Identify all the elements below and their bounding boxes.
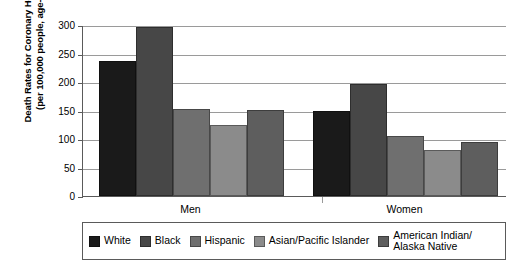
bar-men-asian [210,125,247,196]
legend-label-black: Black [155,235,181,247]
bar-women-asian [424,150,461,196]
y-tick-label-150: 150 [41,107,75,117]
x-axis-label-women: Women [365,203,445,215]
bar-men-black [136,27,173,196]
y-tick-150 [78,112,83,113]
chart-legend: White Black Hispanic Asian/Pacific Islan… [82,222,506,260]
legend-swatch-asian-pacific-islander [254,236,265,247]
legend-label-hispanic: Hispanic [205,235,245,247]
y-tick-50 [78,169,83,170]
y-tick-100 [78,140,83,141]
bar-women-hispanic [387,136,424,196]
y-tick-250 [78,55,83,56]
legend-label-american-indian-alaska-native: American Indian/Alaska Native [393,230,477,253]
legend-label-asian-pacific-islander: Asian/Pacific Islander [269,235,369,247]
y-tick-300 [78,26,83,27]
bar-men-hispanic [173,109,210,196]
legend-item-black: Black [140,235,181,247]
bar-men-white [99,61,136,196]
y-tick-0 [78,197,83,198]
legend-swatch-hispanic [190,236,201,247]
legend-label-line2: Alaska Native [393,240,457,252]
y-tick-label-100: 100 [41,135,75,145]
legend-item-asian-pacific-islander: Asian/Pacific Islander [254,235,369,247]
plot-area: 050100150200250300 [82,26,506,197]
bar-women-american-indian [461,142,498,196]
chart-figure: Death Rates for Coronary Heart Disease (… [0,0,520,264]
legend-label-white: White [104,235,131,247]
y-tick-label-200: 200 [41,78,75,88]
y-tick-label-250: 250 [41,50,75,60]
y-tick-200 [78,83,83,84]
bar-women-black [350,84,387,196]
legend-label-line1: American Indian/ [393,229,472,241]
legend-item-american-indian-alaska-native: American Indian/Alaska Native [378,230,477,253]
y-tick-label-50: 50 [41,164,75,174]
legend-item-white: White [89,235,131,247]
legend-swatch-black [140,236,151,247]
x-axis-label-men: Men [151,203,231,215]
y-axis-title-line1: Death Rates for Coronary Heart Disease [22,0,34,134]
group-separator-tick [322,197,323,203]
bar-men-american-indian [247,110,284,196]
legend-item-hispanic: Hispanic [190,235,245,247]
bar-women-white [313,111,350,196]
y-tick-label-0: 0 [41,192,75,202]
legend-swatch-american-indian-alaska-native [378,236,389,247]
legend-swatch-white [89,236,100,247]
y-tick-label-300: 300 [41,21,75,31]
